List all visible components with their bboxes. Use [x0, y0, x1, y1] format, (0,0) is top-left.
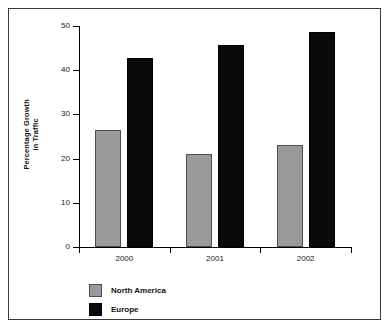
y-tick-mark [73, 203, 79, 204]
y-axis-title-line-2: in Traffic [31, 99, 40, 169]
bar-europe-2002 [309, 32, 335, 247]
bar-chart-figure: Percentage Growth in Traffic 01020304050… [0, 0, 391, 335]
y-axis-line [79, 26, 80, 247]
chart-legend: North AmericaEurope [89, 281, 166, 319]
y-tick-mark [73, 114, 79, 115]
x-tick-mark [79, 247, 80, 253]
x-category-label-2001: 2001 [206, 255, 224, 263]
x-axis-line [79, 247, 351, 248]
black-square-swatch [89, 303, 102, 316]
y-tick-mark [73, 70, 79, 71]
y-tick-label: 0 [66, 243, 70, 251]
legend-item-north-america: North America [89, 281, 166, 300]
legend-label: North America [111, 287, 166, 295]
x-category-label-2000: 2000 [115, 255, 133, 263]
y-tick-label: 50 [61, 22, 70, 30]
y-axis-title-line-1: Percentage Growth [22, 99, 31, 169]
y-tick-label: 20 [61, 155, 70, 163]
bar-north-america-2001 [186, 154, 212, 247]
bar-europe-2001 [218, 45, 244, 247]
legend-item-europe: Europe [89, 300, 166, 319]
x-tick-mark [351, 247, 352, 253]
y-tick-label: 30 [61, 110, 70, 118]
x-category-label-2002: 2002 [297, 255, 315, 263]
y-tick-mark [73, 159, 79, 160]
x-tick-mark [260, 247, 261, 253]
x-tick-mark [170, 247, 171, 253]
y-tick-mark [73, 26, 79, 27]
plot-area: 01020304050 [79, 26, 351, 247]
bar-north-america-2002 [277, 145, 303, 247]
bar-north-america-2000 [95, 130, 121, 247]
y-tick-label: 40 [61, 66, 70, 74]
y-axis-title: Percentage Growth in Traffic [22, 74, 40, 194]
bar-europe-2000 [127, 58, 153, 247]
gray-square-swatch [89, 284, 102, 297]
y-tick-label: 10 [61, 199, 70, 207]
legend-label: Europe [111, 306, 139, 314]
